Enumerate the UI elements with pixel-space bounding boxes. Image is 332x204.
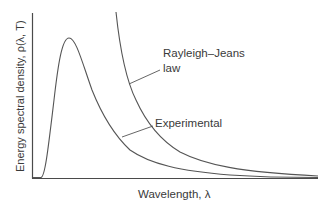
rayleigh-jeans-label-line2: law: [163, 62, 181, 74]
x-axis-label: Wavelength, λ: [138, 188, 211, 200]
experimental-leader-line: [122, 126, 153, 137]
rayleigh-jeans-leader-line: [129, 70, 160, 84]
rayleigh-jeans-curve: [116, 12, 318, 176]
experimental-label: Experimental: [155, 117, 222, 129]
blackbody-chart: Rayleigh–Jeans law Experimental Waveleng…: [0, 0, 332, 204]
rayleigh-jeans-label-line1: Rayleigh–Jeans: [163, 47, 245, 59]
axes: [32, 13, 318, 179]
y-axis-label: Energy spectral density, ρ(λ, T): [14, 20, 26, 172]
